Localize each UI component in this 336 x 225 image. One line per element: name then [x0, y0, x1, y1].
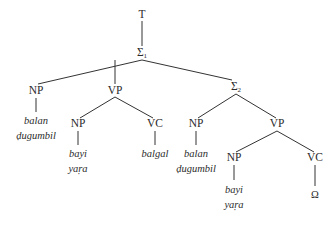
node-vc-2: VC	[307, 152, 323, 164]
node-label: VC	[147, 117, 163, 129]
leaf-word: yaṛa	[68, 161, 87, 176]
syntax-tree-diagram: T Σ1 NP VP Σ2 NP VC NP VP NP VC balan ḍu…	[0, 0, 336, 225]
node-np-4: NP	[227, 152, 242, 164]
leaf-np-1: balan ḍugumbil	[16, 113, 56, 143]
node-label: NP	[227, 151, 242, 163]
node-t: T	[138, 9, 145, 21]
leaf-np-3: balan ḍugumbil	[176, 146, 216, 176]
node-vp-2: VP	[270, 118, 285, 130]
node-np-1: NP	[29, 85, 44, 97]
leaf-vc-2: Ω	[311, 187, 319, 202]
node-label: VC	[307, 151, 323, 163]
leaf-word: bayi	[224, 182, 243, 197]
node-sigma-1: Σ1	[137, 47, 147, 60]
leaf-word: ḍugumbil	[16, 128, 56, 143]
node-np-2: NP	[71, 118, 86, 130]
leaf-word: balan	[16, 113, 56, 128]
node-label: VP	[108, 84, 123, 96]
node-label: NP	[71, 117, 86, 129]
node-vc-1: VC	[147, 118, 163, 130]
node-label: T	[138, 8, 145, 20]
node-sigma-2: Σ2	[231, 81, 241, 94]
node-label: Σ	[231, 80, 238, 92]
leaf-vc-1: balgal	[142, 146, 169, 161]
leaf-word: bayi	[68, 146, 87, 161]
leaf-word: balgal	[142, 146, 169, 161]
leaf-word: ḍugumbil	[176, 161, 216, 176]
node-subscript: 2	[238, 86, 242, 94]
node-label: VP	[270, 117, 285, 129]
node-np-3: NP	[189, 118, 204, 130]
node-subscript: 1	[144, 52, 148, 60]
node-vp-1: VP	[108, 85, 123, 97]
node-label: Σ	[137, 46, 144, 58]
leaf-word: balan	[176, 146, 216, 161]
node-label: NP	[189, 117, 204, 129]
leaf-word: yaṛa	[224, 197, 243, 212]
leaf-omega: Ω	[311, 187, 319, 202]
node-label: NP	[29, 84, 44, 96]
leaf-np-2: bayi yaṛa	[68, 146, 87, 176]
leaf-np-4: bayi yaṛa	[224, 182, 243, 212]
